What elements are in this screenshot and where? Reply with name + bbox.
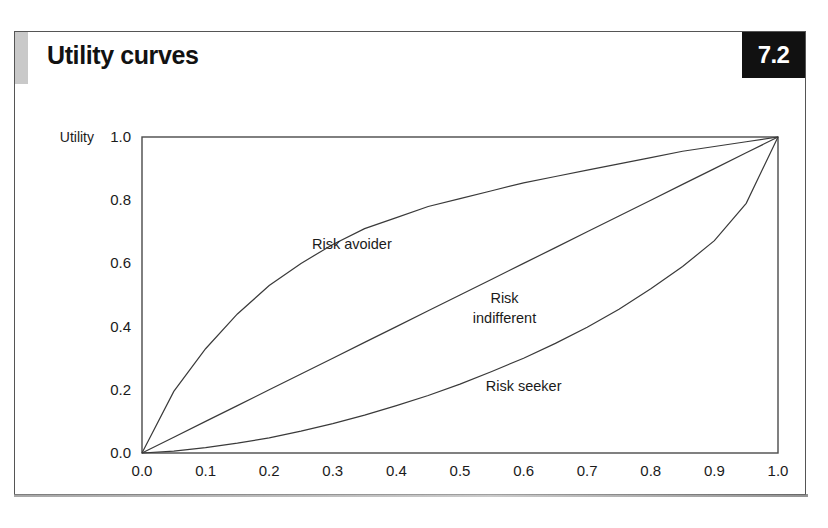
x-axis-tick-label: 0.5 [450, 462, 471, 479]
utility-curves-chart: 0.00.20.40.60.81.00.00.10.20.30.40.50.60… [15, 82, 807, 494]
frame-bottom-shading [14, 494, 808, 497]
x-axis-tick-label: 0.0 [132, 462, 153, 479]
x-axis-tick-label: 0.3 [322, 462, 343, 479]
x-axis-tick-label: 0.2 [259, 462, 280, 479]
x-axis-tick-label: 0.4 [386, 462, 407, 479]
x-axis-tick-label: 0.1 [195, 462, 216, 479]
x-axis-tick-label: 0.7 [577, 462, 598, 479]
page-title: Utility curves [47, 41, 198, 70]
figure-number-label: 7.2 [758, 41, 790, 69]
y-axis-tick-label: 0.8 [110, 191, 131, 208]
curve-label-risk-seeker: Risk seeker [486, 378, 562, 394]
y-axis-tick-label: 0.6 [110, 254, 131, 271]
x-axis-tick-label: 1.0 [768, 462, 789, 479]
y-axis-title: Utility [60, 129, 94, 145]
y-axis-tick-label: 0.4 [110, 318, 131, 335]
y-axis-tick-label: 0.2 [110, 381, 131, 398]
curve-label-risk-avoider: Risk avoider [312, 236, 392, 252]
figure-number-badge: 7.2 [742, 32, 805, 78]
figure-container: Utility curves 7.2 0.00.20.40.60.81.00.0… [14, 31, 806, 495]
x-axis-tick-label: 0.8 [640, 462, 661, 479]
chart-plot-area: 0.00.20.40.60.81.00.00.10.20.30.40.50.60… [15, 82, 807, 494]
curve-risk-indifferent [142, 137, 778, 453]
curve-label-risk-indifferent-line2: indifferent [473, 310, 536, 326]
title-accent-bar [15, 32, 28, 84]
chart-axes: 0.00.20.40.60.81.00.00.10.20.30.40.50.60… [110, 128, 788, 479]
y-axis-tick-label: 0.0 [110, 444, 131, 461]
x-axis-tick-label: 0.6 [513, 462, 534, 479]
figure-header: Utility curves 7.2 [15, 32, 805, 86]
chart-text-labels: UtilityMoney valuesRisk avoiderRiskindif… [60, 129, 778, 494]
chart-curves [142, 137, 778, 453]
y-axis-tick-label: 1.0 [110, 128, 131, 145]
curve-label-risk-indifferent-line1: Risk [490, 290, 519, 306]
x-axis-tick-label: 0.9 [704, 462, 725, 479]
